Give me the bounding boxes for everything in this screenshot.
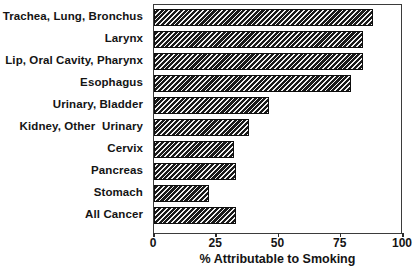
bar xyxy=(154,141,234,158)
category-label: Kidney, Other Urinary xyxy=(20,118,143,135)
x-tick-label: 0 xyxy=(150,236,157,250)
category-label: Pancreas xyxy=(91,162,143,179)
category-label: All Cancer xyxy=(85,206,143,223)
bar xyxy=(154,97,269,114)
bar xyxy=(154,53,363,70)
category-label: Esophagus xyxy=(80,74,143,91)
bar xyxy=(154,163,236,180)
category-label: Stomach xyxy=(94,184,143,201)
bar xyxy=(154,31,363,48)
x-tick-label: 25 xyxy=(209,236,222,250)
bar xyxy=(154,75,351,92)
bar-chart-figure: Trachea, Lung, Bronchus Larynx Lip, Oral… xyxy=(0,0,420,276)
bar xyxy=(154,9,373,26)
x-tick-label: 50 xyxy=(271,236,284,250)
category-label: Larynx xyxy=(105,30,143,47)
category-label: Lip, Oral Cavity, Pharynx xyxy=(5,52,143,69)
x-axis xyxy=(153,233,402,235)
x-axis-title: % Attributable to Smoking xyxy=(153,252,402,266)
bar xyxy=(154,119,249,136)
category-label-column: Trachea, Lung, Bronchus Larynx Lip, Oral… xyxy=(0,8,149,230)
bar xyxy=(154,207,236,224)
x-tick-label: 75 xyxy=(333,236,346,250)
plot-area xyxy=(153,4,402,234)
category-label: Urinary, Bladder xyxy=(53,96,143,113)
bar xyxy=(154,185,209,202)
category-label: Trachea, Lung, Bronchus xyxy=(3,8,143,25)
x-tick-label: 100 xyxy=(392,236,412,250)
category-label: Cervix xyxy=(107,140,143,157)
